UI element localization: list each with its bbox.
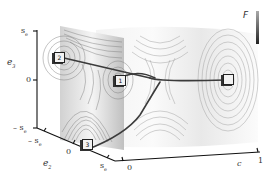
e3-tick-top: se: [21, 27, 28, 37]
e3-axis-label: e3: [7, 58, 16, 69]
e2-tick-zero: 0: [66, 148, 71, 156]
state-2-box: 2: [54, 52, 65, 63]
state-3-box: 3: [82, 139, 93, 150]
state-1-box: 1: [115, 75, 126, 86]
e2-tick-left: – se: [28, 137, 42, 147]
c-axis-label: c: [237, 160, 241, 168]
e2-tick-right: se: [100, 162, 107, 172]
colorbar-label: F: [243, 11, 248, 20]
e3-tick-zero: 0: [26, 76, 31, 84]
e3-tick-bottom: – se: [13, 124, 27, 134]
colorbar: [256, 11, 259, 44]
c-tick-zero: 0: [127, 164, 132, 172]
state-4-box: [223, 74, 234, 85]
c-tick-one: 1: [258, 157, 263, 165]
e2-axis-label: e2: [43, 159, 52, 170]
contour-plane-front: [43, 26, 133, 150]
free-energy-diagram: [0, 0, 270, 177]
